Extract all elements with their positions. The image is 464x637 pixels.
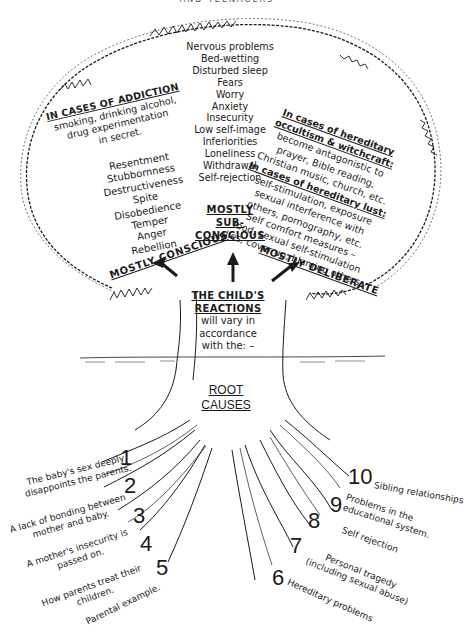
arrow-sub-conscious bbox=[227, 252, 239, 282]
cause-number-5: 5 bbox=[156, 557, 168, 579]
child-reactions-block: THE CHILD'S REACTIONS will vary in accor… bbox=[176, 290, 280, 353]
root-10 bbox=[285, 420, 349, 476]
sub-conscious-line-1: MOSTLY bbox=[195, 203, 265, 216]
child-reactions-title-2: REACTIONS bbox=[176, 303, 280, 316]
cause-number-4: 4 bbox=[140, 533, 152, 555]
root-6 bbox=[232, 450, 255, 580]
root-4 bbox=[140, 445, 205, 530]
mostly-sub-conscious-label: MOSTLY SUB-CONSCIOUS bbox=[195, 203, 265, 242]
symptom-item: Bed-wetting bbox=[160, 53, 300, 65]
root-causes-line-1: ROOT bbox=[186, 383, 266, 398]
root-causes-title: ROOT CAUSES bbox=[186, 383, 266, 413]
cause-number-2: 2 bbox=[124, 475, 136, 497]
sub-conscious-line-2: SUB-CONSCIOUS bbox=[195, 216, 265, 242]
trunk-right bbox=[283, 300, 330, 440]
root-causes-line-2: CAUSES bbox=[186, 398, 266, 413]
cause-number-8: 8 bbox=[308, 510, 320, 532]
child-reactions-line: accordance bbox=[176, 328, 280, 341]
child-reactions-line: will vary in bbox=[176, 315, 280, 328]
cause-number-7: 7 bbox=[290, 535, 302, 557]
root-8 bbox=[260, 440, 310, 525]
symptom-item: Nervous problems bbox=[160, 41, 300, 53]
cause-number-6: 6 bbox=[272, 567, 284, 589]
child-reactions-title-1: THE CHILD'S bbox=[176, 290, 280, 303]
symptom-item: Disturbed sleep bbox=[160, 65, 300, 77]
ground-line bbox=[80, 356, 385, 358]
root-9 bbox=[270, 430, 332, 510]
cause-number-3: 3 bbox=[133, 505, 145, 527]
cause-number-10: 10 bbox=[348, 466, 372, 488]
trunk-left bbox=[135, 300, 181, 430]
root-7 bbox=[245, 445, 293, 547]
child-reactions-line: with the: – bbox=[176, 340, 280, 353]
